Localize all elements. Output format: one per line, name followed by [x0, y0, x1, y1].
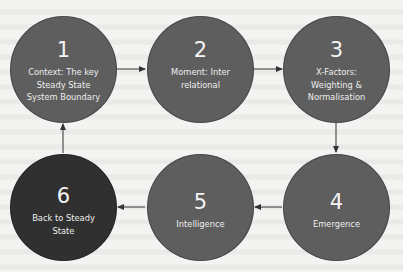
- node-number: 6: [57, 184, 70, 208]
- node-number: 3: [330, 38, 343, 62]
- node-number: 5: [194, 190, 207, 214]
- node-label: Emergence: [307, 218, 366, 231]
- node-2-moment: 2 Moment: Inter relational: [147, 16, 254, 123]
- node-6-back-to-steady-state: 6 Back to Steady State: [10, 154, 117, 261]
- node-number: 1: [57, 38, 70, 62]
- node-3-x-factors: 3 X-Factors: Weighting & Normalisation: [283, 16, 390, 123]
- node-label: Moment: Inter relational: [165, 66, 236, 91]
- node-5-intelligence: 5 Intelligence: [147, 154, 254, 261]
- node-1-context: 1 Context: The key Steady State System B…: [10, 16, 117, 123]
- node-label: X-Factors: Weighting & Normalisation: [302, 66, 372, 104]
- node-label: Intelligence: [170, 218, 230, 231]
- node-number: 2: [194, 38, 207, 62]
- node-4-emergence: 4 Emergence: [283, 154, 390, 261]
- node-label: Back to Steady State: [26, 212, 101, 237]
- node-number: 4: [330, 190, 343, 214]
- node-label: Context: The key Steady State System Bou…: [21, 66, 107, 104]
